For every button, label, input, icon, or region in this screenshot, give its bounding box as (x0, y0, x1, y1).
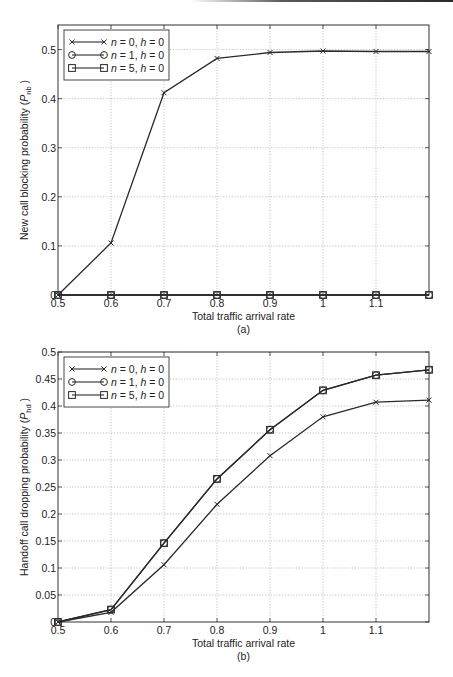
chart-b-y-tick-label: 0.3 (41, 454, 56, 466)
chart-b-legend: n = 0, h = 0n = 1, h = 0n = 5, h = 0 (64, 357, 169, 407)
chart-a-y-tick-label: 0.1 (41, 240, 56, 252)
svg-text:n = 5, h = 0: n = 5, h = 0 (111, 62, 164, 74)
chart-a-y-tick-label: 0.2 (41, 191, 56, 203)
chart-b-y-tick-label: 0.15 (36, 535, 57, 547)
chart-b-y-tick-label: 0.5 (41, 346, 56, 358)
chart-a-y-tick-label: 0.4 (41, 93, 56, 105)
chart-a-x-axis-label: Total traffic arrival rate (192, 310, 295, 322)
chart-b-caption: (b) (237, 650, 250, 662)
chart-a-y-tick-label: 0 (50, 289, 56, 301)
chart-b-x-tick-label: 1.1 (369, 624, 384, 636)
chart-a-y-axis-label: New call blocking probability (Pnb ) (18, 80, 33, 240)
chart-b-y-tick-label: 0.1 (41, 562, 56, 574)
chart-b-y-tick-label: 0.45 (36, 373, 57, 385)
chart-b-y-tick-label: 0 (50, 616, 56, 628)
chart-b-handoff-call-dropping: 0.50.60.70.80.911.100.050.10.150.20.250.… (0, 335, 453, 677)
svg-text:n = 0, h = 0: n = 0, h = 0 (111, 363, 164, 375)
chart-a-y-axis: 00.10.20.30.40.5 (41, 44, 429, 301)
chart-a-y-tick-label: 0.5 (41, 44, 56, 56)
chart-b-x-tick-label: 0.6 (104, 624, 119, 636)
chart-b-y-tick-label: 0.2 (41, 508, 56, 520)
chart-b-y-tick-label: 0.05 (36, 589, 57, 601)
chart-b-y-axis-label: Handoff call dropping probability (Phd ) (18, 398, 33, 576)
chart-b-y-tick-label: 0.4 (41, 400, 56, 412)
chart-a-series-x (56, 49, 432, 298)
chart-b-x-axis-label: Total traffic arrival rate (192, 637, 295, 649)
chart-b-series-x (56, 398, 432, 625)
svg-text:n = 5, h = 0: n = 5, h = 0 (111, 389, 164, 401)
chart-b-y-tick-label: 0.35 (36, 427, 57, 439)
svg-text:n = 0, h = 0: n = 0, h = 0 (111, 36, 164, 48)
chart-a-legend: n = 0, h = 0n = 1, h = 0n = 5, h = 0 (64, 30, 169, 80)
chart-a-new-call-blocking: 0.50.60.70.80.911.100.10.20.30.40.5Total… (0, 0, 453, 335)
svg-text:n = 1, h = 0: n = 1, h = 0 (111, 376, 164, 388)
svg-text:n = 1, h = 0: n = 1, h = 0 (111, 49, 164, 61)
chart-a-y-tick-label: 0.3 (41, 142, 56, 154)
chart-b-y-tick-label: 0.25 (36, 481, 57, 493)
chart-b-x-tick-label: 0.7 (157, 624, 172, 636)
chart-b-x-tick-label: 0.9 (263, 624, 278, 636)
chart-b-x-tick-label: 1 (320, 624, 326, 636)
chart-b-x-tick-label: 0.8 (210, 624, 225, 636)
chart-a-caption: (a) (237, 323, 250, 335)
